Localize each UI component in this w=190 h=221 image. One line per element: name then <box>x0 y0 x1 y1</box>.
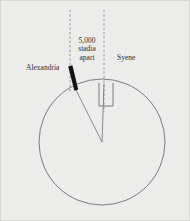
syene-label: Syene <box>117 54 135 62</box>
distance-label: 5,000 stadia apart <box>72 37 102 62</box>
diagram-background <box>0 0 190 221</box>
eratosthenes-diagram: Alexandria Syene 5,000 stadia apart <box>0 0 190 221</box>
alexandria-label: Alexandria <box>26 64 59 72</box>
distance-label-line-3: apart <box>72 54 102 62</box>
diagram-canvas <box>0 0 190 221</box>
